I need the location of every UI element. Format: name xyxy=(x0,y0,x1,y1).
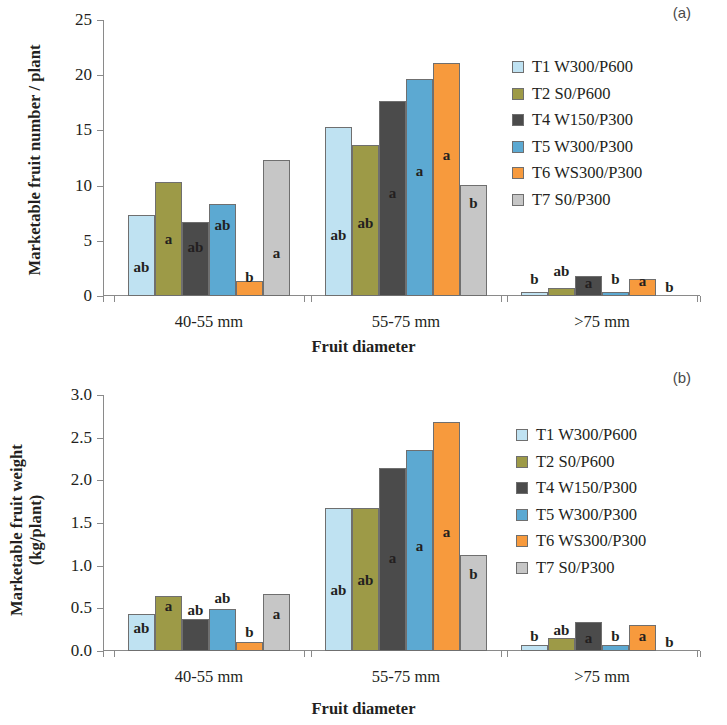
legend-item-label: T4 W150/P300 xyxy=(532,110,633,130)
legend-swatch-icon xyxy=(512,194,524,206)
x-axis-title-a: Fruit diameter xyxy=(0,337,727,357)
x-axis-title-b: Fruit diameter xyxy=(0,699,727,719)
x-category-label: 55-75 mm xyxy=(372,667,440,687)
x-tick-mark xyxy=(697,296,698,302)
legend-item-a-4: T6 WS300/P300 xyxy=(512,163,642,183)
y-axis-title-b: Marketable fruit weight (kg/plant) xyxy=(8,395,46,665)
legend-item-b-0: T1 W300/P600 xyxy=(516,425,646,445)
legend-a: T1 W300/P600T2 S0/P600T4 W150/P300T5 W30… xyxy=(512,57,642,216)
legend-item-b-1: T2 S0/P600 xyxy=(516,452,646,472)
legend-b: T1 W300/P600T2 S0/P600T4 W150/P300T5 W30… xyxy=(516,425,646,584)
bar-significance-label: a xyxy=(639,274,647,289)
legend-swatch-icon xyxy=(516,482,528,494)
legend-item-label: T7 S0/P300 xyxy=(536,558,614,578)
bar-significance-label: b xyxy=(245,270,253,285)
legend-swatch-icon xyxy=(512,88,524,100)
bar-significance-label: b xyxy=(469,196,477,211)
legend-item-label: T7 S0/P300 xyxy=(532,190,610,210)
y-tick-label: 15 xyxy=(75,120,92,140)
x-tick-mark xyxy=(700,651,701,657)
bar xyxy=(325,508,352,651)
bar-significance-label: ab xyxy=(554,623,570,638)
legend-swatch-icon xyxy=(516,535,528,547)
y-tick-mark xyxy=(97,608,103,609)
legend-item-a-2: T4 W150/P300 xyxy=(512,110,642,130)
x-tick-mark xyxy=(501,296,502,302)
legend-item-a-0: T1 W300/P600 xyxy=(512,57,642,77)
x-tick-mark xyxy=(507,296,508,302)
bar-significance-label: b xyxy=(245,625,253,640)
bar-significance-label: ab xyxy=(358,216,374,231)
x-tick-mark xyxy=(114,296,115,302)
y-tick-mark xyxy=(97,480,103,481)
bar-significance-label: ab xyxy=(215,218,231,233)
bar-significance-label: ab xyxy=(188,603,204,618)
bar-significance-label: a xyxy=(416,164,424,179)
y-tick-label: 0 xyxy=(84,286,93,306)
bar-significance-label: ab xyxy=(331,583,347,598)
y-tick-label: 5 xyxy=(84,231,93,251)
x-tick-mark xyxy=(507,651,508,657)
y-tick-mark xyxy=(97,20,103,21)
legend-item-b-2: T4 W150/P300 xyxy=(516,478,646,498)
panel-tag-b: (b) xyxy=(673,369,691,386)
legend-item-label: T5 W300/P300 xyxy=(536,505,637,525)
legend-swatch-icon xyxy=(516,509,528,521)
bar-significance-label: b xyxy=(665,280,673,295)
legend-item-a-3: T5 W300/P300 xyxy=(512,137,642,157)
bar-significance-label: b xyxy=(530,272,538,287)
bar-significance-label: a xyxy=(639,629,647,644)
bar-significance-label: ab xyxy=(215,591,231,606)
y-tick-mark xyxy=(97,523,103,524)
bar xyxy=(521,645,548,651)
bar xyxy=(548,288,575,296)
y-tick-mark xyxy=(97,75,103,76)
y-tick-mark xyxy=(97,566,103,567)
bar-significance-label: a xyxy=(416,539,424,554)
legend-swatch-icon xyxy=(512,61,524,73)
y-tick-mark xyxy=(97,186,103,187)
y-tick-label: 1.5 xyxy=(71,513,92,533)
bar-significance-label: ab xyxy=(134,260,150,275)
bar-significance-label: a xyxy=(389,186,397,201)
chart-panel-b: (b) Marketable fruit weight (kg/plant) 0… xyxy=(0,365,727,725)
x-tick-mark xyxy=(501,651,502,657)
x-tick-mark xyxy=(311,296,312,302)
x-tick-mark xyxy=(114,651,115,657)
x-tick-mark xyxy=(304,651,305,657)
bar xyxy=(128,215,155,296)
legend-item-label: T2 S0/P600 xyxy=(536,452,614,472)
legend-item-label: T4 W150/P300 xyxy=(536,478,637,498)
bar xyxy=(236,642,263,651)
x-category-label: >75 mm xyxy=(574,312,630,332)
bar-significance-label: a xyxy=(585,276,593,291)
bar-significance-label: a xyxy=(165,599,173,614)
y-tick-mark xyxy=(97,395,103,396)
y-tick-mark xyxy=(97,438,103,439)
x-tick-mark xyxy=(700,296,701,302)
y-tick-label: 2.0 xyxy=(71,470,92,490)
y-tick-mark xyxy=(97,241,103,242)
bar xyxy=(521,292,548,296)
legend-item-label: T5 W300/P300 xyxy=(532,137,633,157)
x-category-label: 40-55 mm xyxy=(175,667,243,687)
bar xyxy=(209,609,236,651)
bar-significance-label: a xyxy=(165,232,173,247)
legend-item-label: T1 W300/P600 xyxy=(536,425,637,445)
bar xyxy=(263,594,290,651)
bar xyxy=(602,645,629,651)
x-tick-mark xyxy=(697,651,698,657)
bar xyxy=(602,292,629,296)
y-tick-label: 25 xyxy=(75,10,92,30)
x-category-label: 40-55 mm xyxy=(175,312,243,332)
bar xyxy=(406,79,433,296)
bar-significance-label: b xyxy=(611,272,619,287)
x-tick-mark xyxy=(304,296,305,302)
x-tick-mark xyxy=(103,296,104,302)
y-axis-title-b-line2: (kg/plant) xyxy=(27,395,46,665)
x-tick-mark xyxy=(311,651,312,657)
bar xyxy=(182,619,209,651)
legend-item-label: T1 W300/P600 xyxy=(532,57,633,77)
bar-significance-label: b xyxy=(530,629,538,644)
bar-significance-label: a xyxy=(443,525,451,540)
